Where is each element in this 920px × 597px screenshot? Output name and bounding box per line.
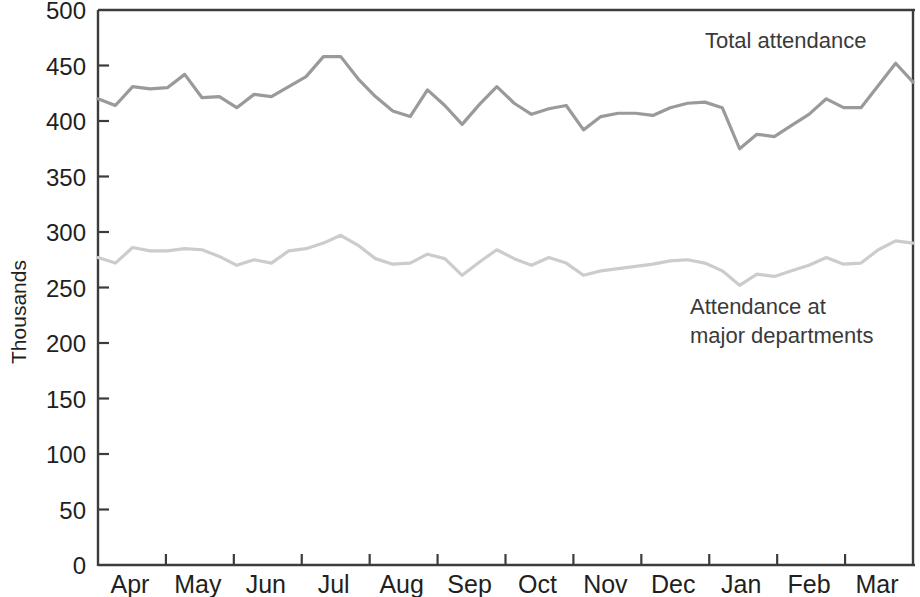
attendance-line-chart: 050100150200250300350400450500 AprMayJun…	[0, 0, 920, 597]
x-tick-label-aug: Aug	[379, 570, 423, 597]
annotation-major-departments-line1: Attendance at	[690, 294, 826, 319]
y-tick-label-150: 150	[46, 386, 86, 413]
y-tick-label-500: 500	[46, 0, 86, 24]
x-tick-label-may: May	[174, 570, 222, 597]
y-tick-label-350: 350	[46, 164, 86, 191]
annotation-total-attendance: Total attendance	[705, 28, 866, 53]
y-tick-label-200: 200	[46, 330, 86, 357]
y-tick-label-0: 0	[73, 552, 86, 579]
x-tick-label-dec: Dec	[651, 570, 695, 597]
x-tick-label-jan: Jan	[721, 570, 761, 597]
x-tick-label-feb: Feb	[788, 570, 831, 597]
y-tick-label-400: 400	[46, 108, 86, 135]
chart-canvas: 050100150200250300350400450500 AprMayJun…	[0, 0, 920, 597]
x-tick-label-apr: Apr	[111, 570, 150, 597]
y-tick-label-50: 50	[59, 497, 86, 524]
annotation-major-departments-line2: major departments	[690, 323, 873, 348]
y-tick-label-250: 250	[46, 275, 86, 302]
x-tick-label-sep: Sep	[447, 570, 491, 597]
y-axis-title: Thousands	[7, 260, 30, 364]
x-tick-label-jun: Jun	[246, 570, 286, 597]
y-tick-label-450: 450	[46, 53, 86, 80]
y-tick-label-100: 100	[46, 441, 86, 468]
x-tick-label-oct: Oct	[518, 570, 557, 597]
y-tick-label-300: 300	[46, 219, 86, 246]
x-tick-label-jul: Jul	[318, 570, 350, 597]
x-tick-label-nov: Nov	[583, 570, 628, 597]
x-tick-label-mar: Mar	[856, 570, 899, 597]
